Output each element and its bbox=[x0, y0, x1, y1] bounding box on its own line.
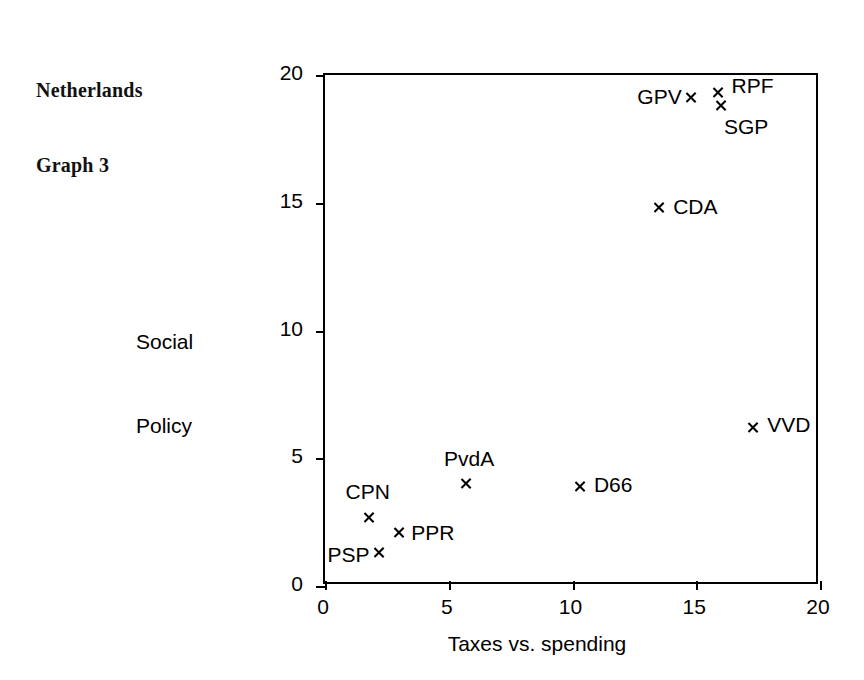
y-tick-10 bbox=[316, 331, 325, 333]
data-point-psp bbox=[372, 545, 387, 560]
x-tick-20 bbox=[820, 581, 822, 590]
page-title-line-2: Graph 3 bbox=[36, 153, 143, 178]
y-axis-title-line-2: Policy bbox=[136, 412, 193, 440]
data-point-rpf bbox=[711, 85, 726, 100]
data-point-label-pvda: PvdA bbox=[444, 447, 494, 471]
data-point-label-sgp: SGP bbox=[724, 115, 768, 139]
data-point-ppr bbox=[392, 525, 407, 540]
data-point-cpn bbox=[362, 510, 377, 525]
x-tick-label-0: 0 bbox=[317, 595, 329, 619]
data-point-label-psp: PSP bbox=[327, 543, 369, 567]
page-title: Netherlands Graph 3 bbox=[36, 28, 143, 203]
y-tick-label-5: 5 bbox=[291, 444, 303, 468]
y-tick-label-20: 20 bbox=[280, 61, 303, 85]
y-axis-title-line-1: Social bbox=[136, 328, 193, 356]
x-tick-label-20: 20 bbox=[806, 595, 829, 619]
data-point-vvd bbox=[746, 420, 761, 435]
y-tick-label-0: 0 bbox=[291, 572, 303, 596]
y-tick-0 bbox=[316, 586, 325, 588]
data-point-label-gpv: GPV bbox=[637, 85, 681, 109]
x-tick-5 bbox=[449, 581, 451, 590]
page-title-line-1: Netherlands bbox=[36, 78, 143, 103]
data-point-label-d66: D66 bbox=[594, 473, 633, 497]
x-tick-label-10: 10 bbox=[559, 595, 582, 619]
scatter-plot-area: GPVRPFSGPCDAVVDPvdAD66CPNPPRPSP bbox=[323, 73, 818, 584]
y-tick-20 bbox=[316, 75, 325, 77]
data-point-cda bbox=[652, 200, 667, 215]
y-tick-15 bbox=[316, 203, 325, 205]
data-point-pvda bbox=[459, 476, 474, 491]
data-point-label-cda: CDA bbox=[673, 195, 717, 219]
data-point-label-rpf: RPF bbox=[732, 74, 774, 98]
x-tick-label-5: 5 bbox=[441, 595, 453, 619]
data-point-label-cpn: CPN bbox=[346, 480, 390, 504]
x-tick-10 bbox=[573, 581, 575, 590]
y-tick-5 bbox=[316, 458, 325, 460]
data-point-d66 bbox=[572, 479, 587, 494]
x-tick-15 bbox=[696, 581, 698, 590]
data-point-gpv bbox=[684, 90, 699, 105]
y-tick-label-15: 15 bbox=[280, 189, 303, 213]
data-point-label-ppr: PPR bbox=[411, 521, 454, 545]
x-axis-title: Taxes vs. spending bbox=[0, 632, 864, 656]
data-point-sgp bbox=[714, 98, 729, 113]
y-tick-label-10: 10 bbox=[280, 317, 303, 341]
y-axis-title: Social Policy bbox=[136, 272, 193, 468]
data-point-label-vvd: VVD bbox=[767, 413, 810, 437]
x-axis-title-text: Taxes vs. spending bbox=[448, 632, 627, 655]
x-tick-label-15: 15 bbox=[683, 595, 706, 619]
y-axis-tick-labels: 05101520 bbox=[243, 0, 303, 680]
x-tick-0 bbox=[325, 581, 327, 590]
